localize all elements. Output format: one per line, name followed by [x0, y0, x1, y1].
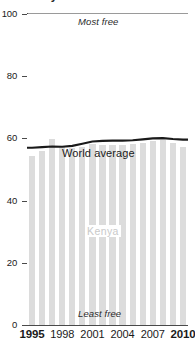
y-tick-label-20: 20: [0, 258, 17, 267]
line-series-world-average: [27, 14, 188, 325]
x-axis-line: [27, 325, 188, 326]
annotation-least-free: Least free: [78, 308, 121, 319]
y-tick-0: [22, 325, 28, 326]
x-tick-label-1998: 1998: [50, 328, 74, 340]
annotation-most-free: Most free: [78, 16, 119, 27]
annotation-world-average: World average: [62, 147, 135, 159]
y-tick-label-100: 100: [0, 9, 17, 18]
x-tick-label-2001: 2001: [80, 328, 104, 340]
annotation-kenya: Kenya: [85, 225, 121, 237]
y-tick-label-80: 80: [0, 71, 17, 80]
y-tick-label-0: 0: [0, 320, 17, 329]
plot-area: [27, 14, 188, 325]
y-tick-label-40: 40: [0, 196, 17, 205]
chart-container: Kenya 020406080100 Most free Least free …: [0, 0, 195, 343]
y-tick-label-60: 60: [0, 133, 17, 142]
x-tick-label-1995: 1995: [19, 328, 44, 340]
x-tick-label-2007: 2007: [141, 328, 165, 340]
x-tick-label-2010: 2010: [170, 328, 195, 340]
x-tick-label-2004: 2004: [111, 328, 135, 340]
chart-title-clipped: Kenya: [28, 0, 168, 7]
